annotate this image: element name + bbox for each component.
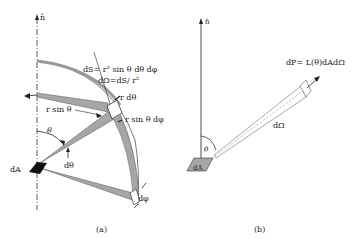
dA-label-b: dA	[193, 164, 203, 172]
theta-label-b: θ	[204, 146, 209, 154]
caption-b: (b)	[254, 225, 265, 234]
dS-label: dS= r² sin θ dθ dφ	[83, 65, 158, 74]
dtheta-label: dθ	[64, 161, 74, 170]
normal-label-b: n̂	[205, 18, 210, 26]
beam	[214, 86, 306, 158]
r-dtheta-label: r dθ	[120, 93, 136, 102]
normal-arrow-icon-b	[199, 18, 203, 24]
wedge-lower	[40, 168, 135, 201]
theta-label-a: θ	[47, 126, 52, 135]
radiance-diagram: n̂ dS= r² sin θ dθ dφ dΩ=dS/ r² r dθ r s…	[0, 0, 364, 244]
panel-b: n̂ dP= L(θ)dAdΩ dΩ θ dA (b)	[187, 18, 345, 234]
dA-label-a: dA	[10, 165, 21, 174]
dP-label: dP= L(θ)dAdΩ	[286, 58, 345, 67]
dphi-label: dφ	[138, 194, 149, 203]
r-sin-theta-label: r sin θ	[46, 105, 72, 114]
r-sin-theta-dphi-label: r sin θ dφ	[125, 115, 164, 124]
caption-a: (a)	[96, 225, 107, 234]
normal-arrow-icon-a	[35, 14, 39, 20]
dOmega-label-a: dΩ=dS/ r²	[98, 76, 139, 85]
dA-patch-a	[29, 162, 47, 174]
panel-a: n̂ dS= r² sin θ dθ dφ dΩ=dS/ r² r dθ r s…	[10, 13, 164, 234]
wedge-upper	[40, 112, 116, 163]
normal-label-a: n̂	[40, 13, 45, 22]
dOmega-label-b: dΩ	[273, 121, 285, 130]
